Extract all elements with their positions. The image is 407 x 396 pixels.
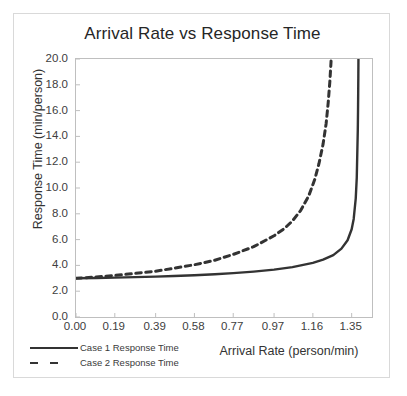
series-line-2 — [76, 59, 332, 278]
x-axis-tick-label: 0.77 — [221, 320, 243, 332]
legend-item-label: Case 2 Response Time — [80, 357, 179, 368]
dashed-line-icon — [28, 358, 80, 368]
chart-title: Arrival Rate vs Response Time — [14, 24, 391, 44]
legend-item[interactable]: Case 1 Response Time — [28, 340, 198, 355]
series-canvas — [76, 59, 372, 317]
legend-item[interactable]: Case 2 Response Time — [28, 355, 198, 370]
y-axis-tick-label: 12.0 — [46, 155, 68, 167]
y-axis-tick-label: 16.0 — [46, 104, 68, 116]
x-axis-tick-label: 1.35 — [339, 320, 361, 332]
chart-legend: Case 1 Response TimeCase 2 Response Time — [28, 340, 198, 370]
y-axis-tick-label: 6.0 — [52, 233, 68, 245]
x-axis-tick-labels: 0.000.190.390.580.770.971.161.35 — [75, 320, 371, 340]
y-axis-tick-label: 14.0 — [46, 129, 68, 141]
y-axis-tick-label: 10.0 — [46, 181, 68, 193]
y-axis-tick-labels: 0.02.04.06.08.010.012.014.016.018.020.0 — [14, 50, 72, 324]
legend-item-label: Case 1 Response Time — [80, 342, 179, 353]
y-axis-tick-label: 2.0 — [52, 284, 68, 296]
x-axis-title: Arrival Rate (person/min) — [194, 344, 384, 358]
y-axis-tick-label: 8.0 — [52, 207, 68, 219]
chart-container: Arrival Rate vs Response Time Response T… — [13, 13, 390, 378]
x-axis-tick-label: 0.97 — [262, 320, 284, 332]
x-axis-tick-label: 1.16 — [301, 320, 323, 332]
x-axis-tick-label: 0.58 — [182, 320, 204, 332]
plot-area — [75, 58, 373, 318]
x-axis-tick-label: 0.19 — [103, 320, 125, 332]
solid-line-icon — [28, 343, 80, 353]
x-axis-tick-label: 0.39 — [143, 320, 165, 332]
x-axis-tick-label: 0.00 — [64, 320, 86, 332]
y-axis-tick-label: 18.0 — [46, 78, 68, 90]
y-axis-tick-label: 4.0 — [52, 258, 68, 270]
y-axis-tick-label: 20.0 — [46, 52, 68, 64]
